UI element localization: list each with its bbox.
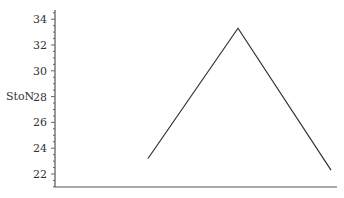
y-tick-label: 24	[33, 142, 47, 155]
y-axis: 22242628303234	[33, 10, 55, 187]
y-tick-label: 32	[33, 39, 47, 52]
y-tick-label: 34	[33, 13, 47, 26]
y-tick-label: 28	[33, 91, 47, 104]
y-tick-label: 22	[33, 168, 47, 181]
y-axis-label: StoN	[6, 90, 35, 103]
y-tick-label: 30	[33, 65, 47, 78]
y-tick-label: 26	[33, 116, 47, 129]
data-line	[148, 28, 331, 170]
line-chart: 22242628303234 StoN	[0, 0, 344, 198]
